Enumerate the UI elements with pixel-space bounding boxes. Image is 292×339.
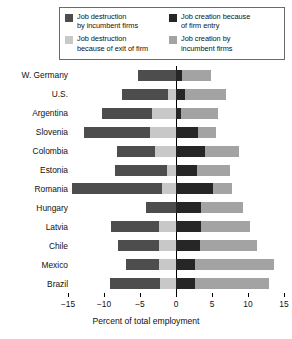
bar-row bbox=[68, 104, 284, 123]
bar-segment bbox=[198, 127, 216, 138]
x-axis-tick bbox=[248, 293, 249, 297]
y-axis-label: Brazil bbox=[47, 279, 68, 289]
legend-label-destruction-exit: Job destruction because of exit of firm bbox=[77, 34, 148, 52]
x-axis-tick bbox=[284, 293, 285, 297]
legend-swatch-creation-entry bbox=[169, 14, 177, 22]
bar-segment bbox=[126, 259, 159, 270]
bar-segment bbox=[201, 202, 243, 213]
bar-row bbox=[68, 66, 284, 85]
y-axis-label: Mexico bbox=[41, 260, 68, 270]
bar-row bbox=[68, 198, 284, 217]
bar-segment bbox=[176, 202, 201, 213]
bar-row bbox=[68, 274, 284, 293]
bar-segment bbox=[72, 183, 163, 194]
bar-segment bbox=[181, 108, 218, 119]
bar-segment bbox=[176, 240, 200, 251]
legend-label-creation-incumbent: Job creation by incumbent firms bbox=[181, 34, 232, 52]
bar-row bbox=[68, 217, 284, 236]
bar-segment bbox=[162, 183, 176, 194]
x-axis-tick-label: −15 bbox=[61, 299, 75, 309]
bar-segment bbox=[200, 240, 258, 251]
y-axis-label: Colombia bbox=[33, 146, 68, 156]
bar-segment bbox=[182, 70, 212, 81]
bar-segment bbox=[213, 183, 232, 194]
x-axis-tick-label: −5 bbox=[135, 299, 145, 309]
x-axis-tick bbox=[68, 293, 69, 297]
bar-segment bbox=[155, 146, 176, 157]
bar-row bbox=[68, 255, 284, 274]
bar-segment bbox=[117, 146, 155, 157]
bar-segment bbox=[168, 89, 176, 100]
legend-label-creation-entry: Job creation because of firm entry bbox=[181, 12, 250, 30]
bar-row bbox=[68, 236, 284, 255]
y-axis-label: Romania bbox=[34, 184, 68, 194]
bar-segment bbox=[176, 127, 198, 138]
bar-segment bbox=[176, 183, 213, 194]
legend-swatch-creation-incumbent bbox=[169, 36, 177, 44]
bar-segment bbox=[176, 165, 197, 176]
bar-segment bbox=[115, 165, 167, 176]
bar-row bbox=[68, 142, 284, 161]
bar-segment bbox=[185, 89, 226, 100]
bar-segment bbox=[176, 259, 195, 270]
bar-segment bbox=[84, 127, 150, 138]
bar-segment bbox=[195, 259, 274, 270]
x-axis-tick bbox=[104, 293, 105, 297]
bar-segment bbox=[159, 240, 176, 251]
x-axis: −15−10−5051015 bbox=[68, 293, 284, 294]
y-axis-label: Chile bbox=[49, 241, 68, 251]
y-axis-label: Slovenia bbox=[36, 127, 68, 137]
chart-plot-area bbox=[68, 66, 284, 293]
bar-segment bbox=[160, 278, 176, 289]
x-axis-tick-label: −10 bbox=[97, 299, 111, 309]
bar-segment bbox=[118, 240, 158, 251]
x-axis-tick bbox=[176, 293, 177, 297]
y-axis-label: Latvia bbox=[46, 222, 68, 232]
x-axis-tick-label: 0 bbox=[174, 299, 179, 309]
bar-segment bbox=[176, 89, 185, 100]
bar-segment bbox=[197, 165, 230, 176]
bar-row bbox=[68, 123, 284, 142]
bar-segment bbox=[176, 278, 195, 289]
bar-segment bbox=[167, 165, 176, 176]
bar-segment bbox=[138, 70, 176, 81]
legend-entry-creation-incumbent: Job creation by incumbent firms bbox=[169, 34, 287, 52]
bar-segment bbox=[195, 278, 269, 289]
bar-segment bbox=[111, 221, 159, 232]
bar-segment bbox=[201, 221, 250, 232]
y-axis-label: Hungary bbox=[36, 203, 68, 213]
x-axis-tick-label: 15 bbox=[279, 299, 288, 309]
legend-entry-creation-entry: Job creation because of firm entry bbox=[169, 12, 287, 30]
legend-label-destruction-incumbent: Job destruction by incumbent firms bbox=[77, 12, 138, 30]
chart-legend: Job destruction by incumbent firms Job c… bbox=[59, 7, 285, 60]
y-axis-label: Estonia bbox=[40, 165, 68, 175]
bar-segment bbox=[122, 89, 168, 100]
bar-row bbox=[68, 85, 284, 104]
legend-entry-destruction-exit: Job destruction because of exit of firm bbox=[65, 34, 169, 52]
legend-swatch-destruction-exit bbox=[65, 36, 73, 44]
bar-segment bbox=[110, 278, 160, 289]
y-axis-label: U.S. bbox=[52, 89, 68, 99]
bar-segment bbox=[152, 108, 176, 119]
bar-segment bbox=[176, 221, 201, 232]
bar-segment bbox=[176, 146, 205, 157]
y-axis-label: W. Germany bbox=[21, 70, 68, 80]
bar-segment bbox=[146, 202, 176, 213]
legend-swatch-destruction-incumbent bbox=[65, 14, 73, 22]
y-axis-label: Argentina bbox=[32, 108, 68, 118]
x-axis-tick-label: 10 bbox=[243, 299, 252, 309]
x-axis-tick bbox=[212, 293, 213, 297]
bar-row bbox=[68, 180, 284, 199]
bar-segment bbox=[205, 146, 240, 157]
x-axis-tick bbox=[140, 293, 141, 297]
bar-row bbox=[68, 161, 284, 180]
bar-segment bbox=[150, 127, 176, 138]
x-axis-tick-label: 5 bbox=[210, 299, 215, 309]
bar-segment bbox=[159, 259, 176, 270]
x-axis-title: Percent of total employment bbox=[0, 316, 292, 326]
bar-segment bbox=[102, 108, 152, 119]
bar-segment bbox=[159, 221, 176, 232]
legend-entry-destruction-incumbent: Job destruction by incumbent firms bbox=[65, 12, 169, 30]
